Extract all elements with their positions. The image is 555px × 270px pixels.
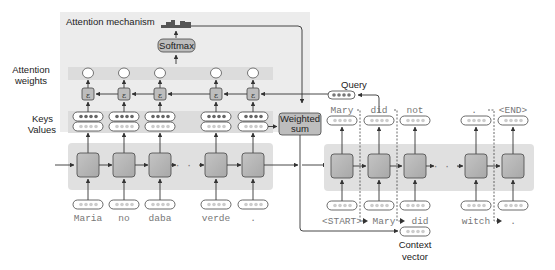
decoder-cell (400, 116, 430, 210)
attention-weights-band (68, 67, 273, 80)
svg-text:<START>: <START> (322, 216, 362, 227)
svg-text:vector: vector (402, 251, 428, 262)
svg-text:ε: ε (122, 91, 126, 100)
svg-text:ε: ε (158, 91, 162, 100)
query-label: Query (341, 79, 367, 90)
svg-text:Values: Values (28, 124, 57, 135)
svg-text:Softmax: Softmax (159, 40, 194, 51)
svg-text:did: did (370, 105, 387, 116)
svg-text:weights: weights (14, 75, 47, 86)
decoder-cell (327, 116, 357, 210)
svg-text:witch: witch (462, 216, 491, 227)
svg-text:Mary: Mary (373, 216, 396, 227)
svg-text:· · ·: · · · (433, 161, 462, 172)
query-vector (328, 91, 355, 99)
svg-text:daba: daba (149, 213, 172, 224)
svg-text:<END>: <END> (499, 105, 528, 116)
svg-text:.: . (510, 216, 516, 227)
svg-text:Keys: Keys (32, 113, 53, 124)
encoder-input-words: Maria no daba verde . (74, 213, 256, 224)
decoder-cell (364, 116, 394, 210)
context-vector-label: Context (399, 239, 432, 250)
svg-text:sum: sum (291, 123, 309, 134)
decoder-input-words: <START> Mary did witch . (322, 216, 516, 227)
svg-text:not: not (406, 105, 423, 116)
svg-text:no: no (118, 213, 130, 224)
svg-text:.: . (471, 105, 477, 116)
svg-text:verde: verde (202, 213, 231, 224)
svg-text:.: . (250, 213, 256, 224)
svg-text:· · ·: · · · (175, 160, 204, 171)
svg-text:Mary: Mary (331, 105, 354, 116)
decoder-cell (498, 116, 528, 210)
svg-text:Maria: Maria (74, 213, 103, 224)
seq2seq-attention-diagram: Attention mechanism Softmax Attention we… (0, 0, 555, 270)
svg-text:ε: ε (214, 91, 218, 100)
attention-mechanism-title: Attention mechanism (66, 16, 155, 27)
svg-text:ε: ε (86, 91, 90, 100)
svg-text:did: did (411, 216, 428, 227)
context-vector (400, 227, 430, 236)
svg-text:ε: ε (251, 91, 255, 100)
decoder-cell (461, 116, 491, 210)
svg-text:Attention: Attention (12, 64, 50, 75)
